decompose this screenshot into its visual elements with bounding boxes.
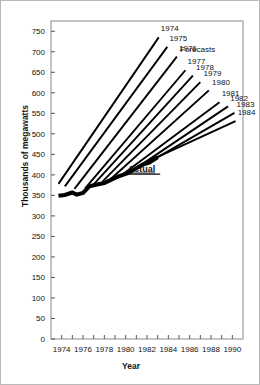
y-tick-label: 500	[32, 130, 46, 139]
x-tick-label: 1988	[202, 345, 220, 354]
x-tick-label: 1986	[181, 345, 199, 354]
y-tick-label: 300	[32, 212, 46, 221]
forecasts-annotation: Forecasts	[180, 45, 215, 54]
x-axis-ticks	[62, 335, 233, 339]
y-axis-title: Thousands of megawatts	[20, 86, 30, 226]
x-tick-label: 1990	[223, 345, 241, 354]
y-tick-label: 450	[32, 150, 46, 159]
y-tick-label: 100	[32, 294, 46, 303]
forecast-year-label: 1975	[169, 34, 187, 43]
y-tick-label: 700	[32, 48, 46, 57]
forecast-series-line	[154, 121, 235, 158]
y-tick-label: 550	[32, 109, 46, 118]
x-tick-label: 1980	[117, 345, 135, 354]
y-tick-label: 200	[32, 253, 46, 262]
forecast-year-label: 1980	[212, 78, 230, 87]
x-tick-label: 1974	[53, 345, 71, 354]
y-tick-label: 250	[32, 232, 46, 241]
forecast-year-labels: 1974197519761977197819791980198119821983…	[161, 24, 256, 117]
y-tick-label: 0	[41, 335, 46, 344]
x-axis-title: Year	[1, 361, 260, 371]
y-tick-label: 400	[32, 171, 46, 180]
forecast-year-label: 1974	[161, 24, 179, 33]
x-tick-label: 1984	[159, 345, 177, 354]
y-axis-tick-labels: 0501001502002503003504004505005506006507…	[32, 27, 46, 344]
forecast-year-label: 1984	[238, 108, 256, 117]
y-tick-label: 650	[32, 68, 46, 77]
chart-canvas: 0501001502002503003504004505005506006507…	[1, 1, 260, 385]
chart-figure: 0501001502002503003504004505005506006507…	[0, 0, 260, 385]
y-tick-label: 750	[32, 27, 46, 36]
x-tick-label: 1982	[138, 345, 156, 354]
y-tick-label: 600	[32, 89, 46, 98]
y-tick-label: 350	[32, 191, 46, 200]
x-tick-label: 1976	[74, 345, 92, 354]
actual-annotation: Actual	[128, 164, 156, 174]
y-tick-label: 50	[36, 314, 45, 323]
x-tick-label: 1978	[95, 345, 113, 354]
y-axis-ticks	[51, 31, 55, 339]
y-tick-label: 150	[32, 273, 46, 282]
x-axis-tick-labels: 197419761978198019821984198619881990	[53, 345, 242, 354]
